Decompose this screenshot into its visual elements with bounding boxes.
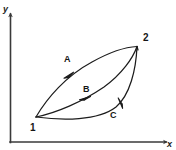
path-label-b: B xyxy=(83,84,90,94)
y-axis-label: y xyxy=(2,4,9,14)
path-b-arrowhead xyxy=(80,97,91,101)
path-c-group xyxy=(36,47,137,120)
x-axis-label: x xyxy=(166,139,173,149)
state-label-1: 1 xyxy=(30,122,36,133)
path-c-curve xyxy=(36,47,137,120)
process-path-diagram: y x 2 1 A B C xyxy=(0,0,176,150)
path-label-c: C xyxy=(110,110,117,120)
path-label-a: A xyxy=(64,54,71,64)
figure-canvas: y x 2 1 A B C xyxy=(0,0,176,150)
state-label-2: 2 xyxy=(143,32,149,43)
